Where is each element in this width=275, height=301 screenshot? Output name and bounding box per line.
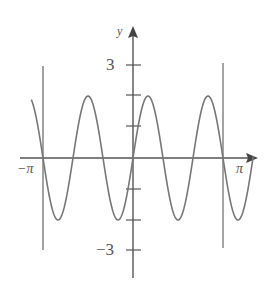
y-axis-label: y [117, 24, 122, 39]
y-tick-label-neg3: −3 [96, 240, 114, 260]
x-tick-label-neg-pi: −π [17, 161, 33, 177]
function-plot [0, 0, 275, 301]
x-tick-label-pi: π [236, 161, 243, 177]
y-tick-label-3: 3 [106, 55, 115, 75]
